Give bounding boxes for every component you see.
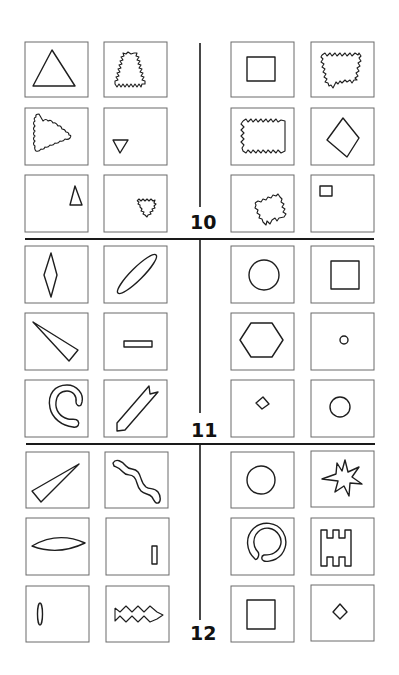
problem-11-right-panel-4: [311, 313, 374, 370]
problem-11-number: 11: [191, 419, 217, 441]
problem-12-left-panel-3: [26, 518, 89, 575]
problem-11-right-panel-1: [231, 246, 294, 303]
problem-12-right-panel-2: [311, 451, 374, 507]
problem-12-left-panel-2: [105, 452, 168, 508]
problem-11-right-panel-3: [231, 313, 294, 370]
problem-10-number: 10: [190, 211, 216, 233]
problem-11-left-panel-3: [25, 313, 88, 370]
problem-11-left-panel-2: [104, 246, 167, 303]
problem-10-right-panel-2: [311, 42, 374, 97]
problem-10-right-panel-6: [311, 175, 374, 232]
problem-12-left-panel-4: [106, 518, 169, 575]
problem-10-left-panel-4: [104, 108, 167, 165]
problem-12-left-panel-1: [26, 452, 89, 508]
problem-10-left-panel-2: [104, 42, 167, 97]
problem-11-left-panel-6: [104, 380, 167, 437]
problem-11-right-panel-2: [311, 246, 374, 303]
problem-12-number: 12: [190, 622, 216, 644]
problem-10-right-panel-3: [231, 108, 294, 165]
problem-12-right-panel-3: [231, 518, 294, 575]
problem-12-right-panel-1: [231, 452, 294, 508]
problem-10-left-panel-3: [25, 108, 88, 165]
problem-10-right-panel-4: [311, 108, 374, 165]
problem-10-left-panel-5: [25, 175, 88, 232]
problem-12-left-panel-5: [26, 586, 89, 642]
problem-10-left-panel-1: [25, 42, 88, 97]
problem-12-left-panel-6: [106, 586, 169, 642]
problem-11-right-panel-6: [311, 380, 374, 437]
problem-11-left-panel-1: [25, 246, 88, 303]
problem-10: 10: [25, 42, 374, 233]
problem-12-right-panel-5: [231, 586, 294, 642]
problem-10-right-panel-5: [231, 175, 294, 232]
problem-10-right-panel-1: [231, 42, 294, 97]
bongard-sheet: 10: [0, 0, 399, 675]
problem-12-right-panel-4: [311, 518, 374, 575]
problem-10-left-panel-6: [104, 175, 167, 232]
problem-11-left-panel-4: [104, 313, 167, 370]
problem-12: 12: [26, 444, 374, 644]
problem-11: 11: [25, 239, 374, 441]
problem-12-right-panel-6: [311, 585, 374, 641]
problem-11-right-panel-5: [231, 380, 294, 437]
problem-11-left-panel-5: [25, 380, 88, 437]
